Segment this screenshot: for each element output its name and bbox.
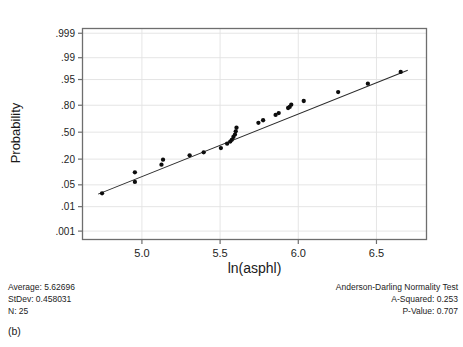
data-point: [302, 99, 306, 103]
data-point: [399, 70, 403, 74]
y-tick-label: .80: [61, 100, 75, 111]
data-point: [159, 163, 163, 167]
x-axis-label: ln(asphl): [82, 260, 427, 276]
data-point: [289, 103, 293, 107]
stdev-stat: StDev: 0.458031: [8, 294, 75, 306]
data-point: [261, 118, 265, 122]
normality-test-block: Anderson-Darling Normality Test A-Square…: [243, 282, 458, 317]
summary-stats-block: Average: 5.62696 StDev: 0.458031 N: 25: [8, 282, 75, 317]
y-tick-label: .999: [56, 28, 76, 39]
y-tick-label: .99: [61, 52, 75, 63]
axis-ticks: [78, 33, 376, 244]
data-point: [161, 158, 165, 162]
data-point: [366, 82, 370, 86]
data-point: [234, 129, 238, 133]
normality-test-title: Anderson-Darling Normality Test: [243, 282, 458, 294]
p-value-stat: P-Value: 0.707: [243, 306, 458, 318]
data-point: [133, 180, 137, 184]
data-point: [133, 170, 137, 174]
probability-plot-figure: .999.99.95.80.50.20.05.01.0015.05.56.06.…: [0, 0, 463, 347]
x-tick-label: 6.0: [291, 247, 306, 259]
figure-caption: (b): [8, 325, 21, 337]
y-tick-label: .20: [61, 154, 75, 165]
x-tick-label: 5.5: [212, 247, 227, 259]
n-stat: N: 25: [8, 306, 75, 318]
y-tick-label: .01: [61, 201, 75, 212]
x-tick-label: 5.0: [134, 247, 149, 259]
y-axis-label: Probability: [8, 78, 23, 188]
data-point: [100, 191, 104, 195]
x-tick-label: 6.5: [369, 247, 384, 259]
data-point: [277, 111, 281, 115]
data-point: [336, 90, 340, 94]
y-tick-label: .50: [61, 127, 75, 138]
grid-lines: [83, 29, 427, 240]
data-point: [219, 146, 223, 150]
data-point: [202, 150, 206, 154]
data-point: [256, 121, 260, 125]
y-tick-label: .95: [61, 74, 75, 85]
average-stat: Average: 5.62696: [8, 282, 75, 294]
y-tick-label: .05: [61, 179, 75, 190]
plot-frame: [83, 29, 427, 240]
y-tick-label: .001: [56, 226, 76, 237]
data-point: [187, 153, 191, 157]
data-point: [234, 126, 238, 130]
a-squared-stat: A-Squared: 0.253: [243, 294, 458, 306]
